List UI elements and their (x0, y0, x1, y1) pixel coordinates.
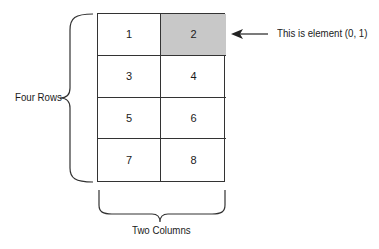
rows-label: Four Rows (15, 91, 62, 103)
element-annotation: This is element (0, 1) (277, 27, 367, 39)
columns-label: Two Columns (132, 224, 191, 236)
left-brace-icon (60, 14, 93, 182)
bottom-brace-icon (99, 190, 225, 222)
